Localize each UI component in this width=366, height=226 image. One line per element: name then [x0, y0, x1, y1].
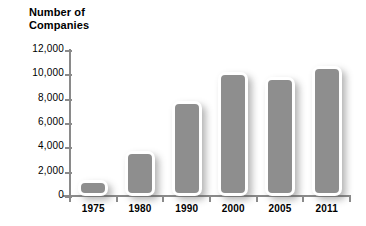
x-axis-tick-mark: [256, 195, 258, 202]
bar-1980[interactable]: [125, 151, 155, 196]
bar-2011[interactable]: [312, 66, 342, 196]
bar-slot: [70, 50, 117, 196]
bar-slot: [303, 50, 350, 196]
y-axis-tick-label: 4,000: [6, 140, 64, 151]
bar-chart-figure: Number of Companies 02,0004,0006,0008,00…: [0, 0, 366, 226]
bar-slot: [117, 50, 164, 196]
x-axis-tick-mark: [302, 195, 304, 202]
y-axis-tick-label: 8,000: [6, 92, 64, 103]
x-axis-tick-mark: [209, 195, 211, 202]
x-axis-tick-mark: [162, 195, 164, 202]
chart-title: Number of Companies: [29, 6, 89, 32]
bar-slot: [257, 50, 304, 196]
y-axis-tick-label: 10,000: [6, 67, 64, 78]
x-axis-tick-mark: [349, 195, 351, 202]
bar-2005[interactable]: [265, 77, 295, 196]
y-axis-tick-label: 0: [6, 189, 64, 200]
bar-2000[interactable]: [218, 72, 248, 196]
y-axis-tick-label: 12,000: [6, 43, 64, 54]
plot-area: [70, 50, 350, 196]
x-axis-tick-mark: [69, 195, 71, 202]
bar-1990[interactable]: [172, 101, 202, 196]
bar-slot: [163, 50, 210, 196]
bar-1975[interactable]: [78, 180, 108, 196]
y-axis-tick-label: 6,000: [6, 116, 64, 127]
y-axis-tick-label: 2,000: [6, 165, 64, 176]
x-axis-tick-mark: [116, 195, 118, 202]
bar-slot: [210, 50, 257, 196]
x-axis-label-2011: 2011: [299, 203, 355, 214]
